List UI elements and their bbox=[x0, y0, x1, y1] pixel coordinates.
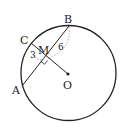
center-point-o bbox=[66, 72, 69, 75]
measure-mb: 6 bbox=[58, 42, 64, 52]
circle-diagram: B C M A O 3 6 bbox=[0, 0, 127, 130]
measure-cm: 3 bbox=[30, 50, 36, 60]
label-a: A bbox=[11, 84, 21, 97]
label-b: B bbox=[64, 13, 72, 26]
label-c: C bbox=[20, 34, 28, 47]
label-m: M bbox=[38, 44, 49, 57]
label-o: O bbox=[63, 79, 72, 92]
